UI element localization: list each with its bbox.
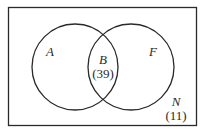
universe-count: (11) [165, 108, 186, 123]
universe-label: N [171, 94, 182, 109]
venn-diagram: A F B (39) N (11) [0, 0, 205, 135]
intersection-label: B [99, 52, 107, 67]
set-f-label: F [148, 44, 158, 59]
intersection-count: (39) [92, 66, 114, 81]
set-a-label: A [45, 44, 54, 59]
